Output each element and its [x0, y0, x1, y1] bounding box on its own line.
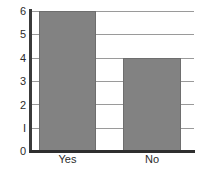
x-tick-label-no: No [123, 154, 181, 165]
y-tick-label-0: 0 [4, 146, 26, 157]
y-tick-label-4: 4 [4, 53, 26, 64]
y-tick-label-3: 3 [4, 76, 26, 87]
x-tick-label-yes: Yes [39, 154, 96, 165]
x-axis-line [29, 150, 195, 153]
y-axis-tick-labels: 6 5 4 3 2 I 0 [0, 0, 26, 170]
y-axis-line [29, 9, 32, 153]
y-tick-label-2: 2 [4, 100, 26, 111]
bar-chart-figure: 6 5 4 3 2 I 0 Yes No [0, 0, 205, 170]
bar-no [123, 58, 181, 151]
y-tick-label-5: 5 [4, 29, 26, 40]
plot-area [30, 11, 194, 151]
bar-yes [39, 11, 96, 151]
y-tick-label-6: 6 [4, 6, 26, 17]
y-tick-label-1: I [4, 123, 26, 134]
